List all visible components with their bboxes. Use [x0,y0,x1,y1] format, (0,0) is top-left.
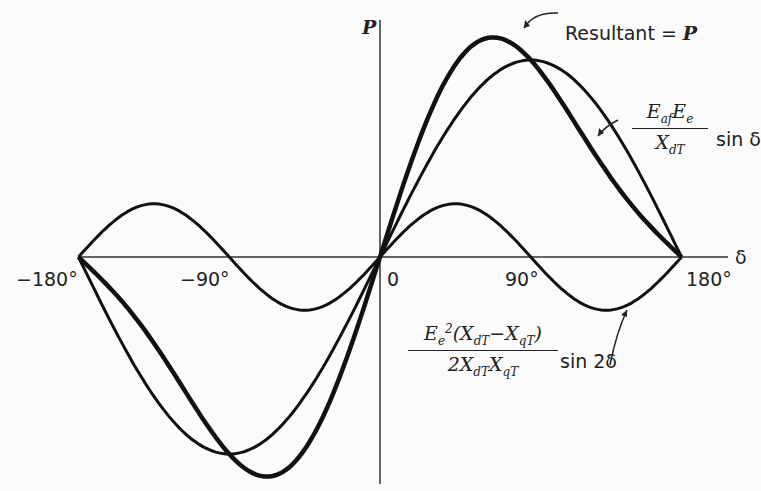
sin2-term-suffix: sin 2δ [560,350,617,372]
resultant-label: Resultant = P [565,22,697,44]
x-axis-label: δ [735,246,747,268]
tick-0: 0 [387,268,399,290]
tick-neg180: −180° [16,268,78,290]
tick-180: 180° [686,268,732,290]
tick-90: 90° [505,268,539,290]
y-axis-label: P [362,16,376,38]
sin2-term-formula: Ee2(XdT−XqT) 2XdTXqT [408,322,558,379]
sin-term-suffix: sin δ [716,128,761,150]
tick-neg90: −90° [180,268,230,290]
sin-term-formula: EafEe XdT [632,100,708,157]
